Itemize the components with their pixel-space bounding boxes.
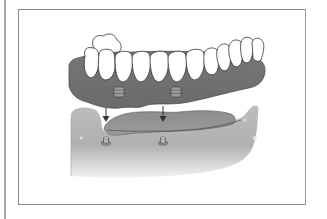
denture-illustration: [19, 10, 307, 206]
attachment-housing-left: [114, 87, 124, 97]
left-margin-rule: [4, 0, 6, 219]
insertion-arrow-left: [103, 108, 110, 122]
attachment-housing-right: [171, 87, 181, 97]
illustration-frame: [18, 9, 306, 205]
